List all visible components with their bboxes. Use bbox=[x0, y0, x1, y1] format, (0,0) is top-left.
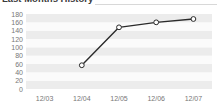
y-tick-label: 180 bbox=[11, 11, 23, 18]
y-tick-label: 140 bbox=[11, 27, 23, 34]
y-tick-label: 60 bbox=[15, 61, 23, 68]
x-tick-label: 12/06 bbox=[147, 95, 165, 102]
data-point-marker bbox=[79, 63, 84, 68]
y-tick-label: 40 bbox=[15, 69, 23, 76]
title-divider bbox=[95, 4, 217, 5]
grid-band bbox=[26, 56, 212, 64]
line-chart-svg: 020406080100120140160180 12/0312/0412/05… bbox=[0, 8, 217, 109]
x-tick-label: 12/03 bbox=[36, 95, 54, 102]
x-tick-label: 12/04 bbox=[73, 95, 91, 102]
y-tick-label: 100 bbox=[11, 44, 23, 51]
grid-band bbox=[26, 72, 212, 80]
y-tick-label: 120 bbox=[11, 36, 23, 43]
data-point-marker bbox=[191, 17, 196, 22]
grid-band bbox=[26, 47, 212, 55]
y-tick-label: 80 bbox=[15, 52, 23, 59]
y-tick-label: 160 bbox=[11, 19, 23, 26]
data-point-marker bbox=[117, 25, 122, 30]
y-axis-tick-labels: 020406080100120140160180 bbox=[11, 11, 23, 93]
grid-band bbox=[26, 81, 212, 89]
y-tick-label: 20 bbox=[15, 77, 23, 84]
x-tick-label: 12/07 bbox=[185, 95, 203, 102]
grid-band bbox=[26, 14, 212, 22]
grid-band bbox=[26, 39, 212, 47]
grid-band bbox=[26, 64, 212, 72]
x-axis-tick-labels: 12/0312/0412/0512/0612/07 bbox=[36, 95, 202, 102]
y-tick-label: 0 bbox=[19, 86, 23, 93]
history-chart-widget: Last Months History 02040608010012014016… bbox=[0, 0, 217, 109]
chart-plot-area: 020406080100120140160180 12/0312/0412/05… bbox=[0, 8, 217, 109]
data-point-marker bbox=[154, 20, 159, 25]
x-tick-label: 12/05 bbox=[110, 95, 128, 102]
grid-band bbox=[26, 31, 212, 39]
